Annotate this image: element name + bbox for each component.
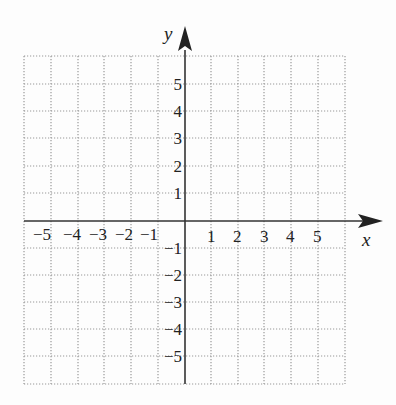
y-axis-arrow-icon <box>178 26 192 51</box>
y-axis-label: y <box>162 23 173 44</box>
x-tick-label: −5 <box>33 225 51 244</box>
x-tick-label: −4 <box>63 225 82 244</box>
x-tick-label: 5 <box>313 227 322 246</box>
y-tick-label: −1 <box>164 239 182 258</box>
x-tick-label: 2 <box>233 227 242 246</box>
y-tick-label: −2 <box>164 266 182 285</box>
x-axis-label: x <box>361 229 371 250</box>
coordinate-plane: y x −5 −4 −3 −2 −1 1 2 3 4 5 5 4 3 2 1 −… <box>0 0 396 405</box>
x-tick-label: 1 <box>207 227 216 246</box>
y-tick-label: 2 <box>174 157 183 176</box>
y-tick-label: 4 <box>174 102 183 121</box>
y-tick-label: 5 <box>174 75 183 94</box>
x-tick-label: −1 <box>140 225 158 244</box>
y-tick-label: −3 <box>164 293 182 312</box>
y-tick-label: 1 <box>174 184 183 203</box>
x-tick-label: −3 <box>89 225 107 244</box>
y-tick-label: −5 <box>164 347 182 366</box>
y-tick-label: −4 <box>164 320 183 339</box>
x-tick-label: 4 <box>286 227 295 246</box>
x-tick-label: −2 <box>115 225 133 244</box>
x-tick-label: 3 <box>260 227 269 246</box>
y-tick-label: 3 <box>174 129 183 148</box>
